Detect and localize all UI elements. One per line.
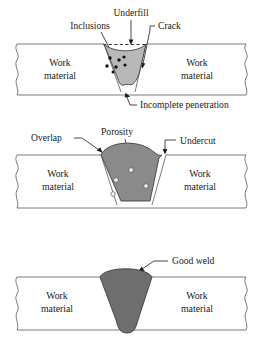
label-incomplete-penetration: Incomplete penetration [140, 99, 229, 110]
break-line-right [245, 44, 247, 95]
label-good-weld: Good weld [172, 255, 215, 266]
break-line-left [16, 277, 18, 330]
inclusion-dot [123, 63, 126, 66]
work-material-left-line1: Work [47, 168, 69, 179]
leader-overlap [74, 138, 103, 153]
label-undercut: Undercut [180, 135, 216, 146]
inclusion-dot [122, 55, 125, 58]
inclusion-dot [114, 65, 117, 68]
inclusion-dot [117, 58, 120, 61]
inclusion-dot [108, 56, 111, 59]
leader-good-weld [138, 261, 168, 272]
work-material-left-line2: material [44, 70, 76, 81]
work-material-left-line1: Work [46, 290, 68, 301]
work-material-right-line1: Work [189, 168, 211, 179]
inclusion-dot [112, 71, 115, 74]
break-line-left [16, 155, 18, 208]
porosity-void [111, 192, 116, 197]
panel-defective-weld-middle: Overlap Porosity Undercut [16, 126, 247, 208]
work-material-left-line1: Work [49, 57, 71, 68]
work-material-right-line1: Work [186, 57, 208, 68]
work-material-right-line2: material [181, 303, 213, 314]
porosity-void [114, 178, 119, 183]
label-underfill: Underfill [113, 7, 149, 18]
weld-defects-figure: Underfill Inclusions Crack [0, 0, 263, 349]
label-crack: Crack [158, 20, 181, 31]
panel-defective-weld-top: Underfill Inclusions Crack [16, 7, 247, 110]
work-material-right-line1: Work [186, 290, 208, 301]
leader-underfill [129, 20, 134, 45]
label-overlap: Overlap [31, 132, 62, 143]
porosity-void [144, 184, 148, 188]
work-material-right-line2: material [184, 181, 216, 192]
label-porosity: Porosity [101, 126, 133, 137]
break-line-left [16, 44, 18, 95]
panel-good-weld: Good weld Work material Work material [16, 255, 247, 333]
work-material-right-line2: material [181, 70, 213, 81]
break-line-right [245, 277, 247, 330]
label-inclusions: Inclusions [70, 20, 110, 31]
inclusion-dot [105, 64, 108, 67]
porosity-void [129, 168, 134, 173]
leader-undercut [163, 140, 176, 154]
work-material-left-line2: material [42, 181, 74, 192]
weld-bead-good [100, 269, 152, 333]
work-material-left-line2: material [41, 303, 73, 314]
break-line-right [245, 155, 247, 208]
